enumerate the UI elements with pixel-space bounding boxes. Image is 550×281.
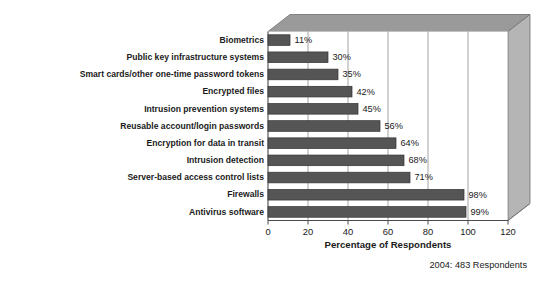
bar — [268, 86, 352, 97]
x-axis-title: Percentage of Respondents — [325, 239, 452, 250]
bar — [268, 189, 464, 200]
bar — [268, 52, 328, 63]
category-label: Encrypted files — [202, 86, 264, 96]
xtick-label: 0 — [265, 226, 270, 237]
bar-value-label: 42% — [357, 87, 375, 97]
bar — [268, 207, 466, 218]
category-label: Reusable account/login passwords — [120, 121, 264, 131]
category-label: Firewalls — [227, 189, 264, 199]
xtick-label: 120 — [500, 226, 516, 237]
bar-value-label: 11% — [295, 35, 313, 45]
bar — [268, 103, 358, 114]
bar — [268, 138, 396, 149]
xtick-label: 40 — [343, 226, 353, 237]
bar — [268, 121, 380, 132]
bar-value-label: 68% — [409, 155, 427, 165]
bar-chart: BiometricsPublic key infrastructure syst… — [0, 0, 550, 281]
xtick-label: 60 — [383, 226, 393, 237]
category-label: Intrusion prevention systems — [144, 104, 264, 114]
xtick-label: 80 — [423, 226, 433, 237]
bar — [268, 172, 410, 183]
bar — [268, 69, 338, 80]
chart-footnote: 2004: 483 Respondents — [429, 260, 527, 270]
category-label: Server-based access control lists — [127, 172, 264, 182]
bar-value-label: 45% — [363, 104, 381, 114]
bar-value-label: 35% — [343, 69, 361, 79]
bar-value-label: 56% — [385, 121, 403, 131]
panel-side-face — [508, 15, 530, 221]
category-label: Antivirus software — [189, 207, 264, 217]
xtick-label-group: 020406080100120 — [265, 226, 515, 237]
panel-top-face — [268, 15, 530, 32]
xtick-label: 100 — [460, 226, 476, 237]
bar-value-label: 30% — [333, 52, 351, 62]
category-label-group: BiometricsPublic key infrastructure syst… — [80, 35, 265, 217]
xtick-label: 20 — [303, 226, 313, 237]
bar-value-label: 71% — [415, 172, 433, 182]
bar-value-label: 64% — [401, 138, 419, 148]
category-label: Biometrics — [220, 35, 265, 45]
bar-value-label: 99% — [471, 207, 489, 217]
category-label: Public key infrastructure systems — [126, 52, 264, 62]
category-label: Intrusion detection — [187, 155, 264, 165]
category-label: Smart cards/other one-time password toke… — [80, 69, 265, 79]
chart-page: BiometricsPublic key infrastructure syst… — [0, 0, 550, 281]
bar — [268, 35, 290, 46]
bar-value-label: 98% — [469, 190, 487, 200]
category-label: Encryption for data in transit — [147, 138, 265, 148]
bar — [268, 155, 404, 166]
